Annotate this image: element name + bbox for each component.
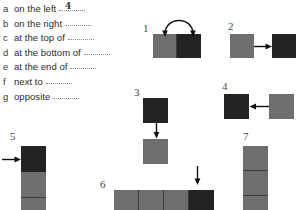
item-letter: d: [3, 47, 14, 58]
list-item: b on the right: [3, 17, 139, 32]
item-letter: f: [3, 76, 14, 87]
figure-6: 6: [100, 178, 220, 210]
figure-5-stack-cell-1: [21, 146, 46, 172]
item-letter: c: [3, 32, 14, 43]
answer-value: 4: [65, 1, 71, 11]
arrow-right-icon: [254, 42, 273, 51]
figure-3-top-block: [143, 98, 168, 123]
figure-6-row-cell-3: [164, 190, 189, 210]
figure-7-stack-cell-3: [243, 196, 268, 210]
figure-3-bottom-block: [143, 139, 168, 164]
figure-6-row-cell-2: [139, 190, 164, 210]
answer-blank[interactable]: [70, 60, 96, 70]
figure-2-number: 2: [228, 20, 234, 32]
answer-blank[interactable]: 4: [59, 2, 85, 12]
item-phrase: on the left: [14, 3, 56, 14]
figure-3: 3: [134, 86, 180, 158]
figure-7-stack-cell-1: [243, 146, 268, 171]
figure-1-number: 1: [143, 22, 149, 34]
figure-4-number: 4: [222, 80, 228, 92]
arrow-right-icon: [2, 155, 22, 164]
curved-arrow-icon: [153, 12, 205, 38]
list-item: f next to: [3, 75, 139, 90]
item-letter: b: [3, 18, 14, 29]
figure-5-stack-cell-3: [21, 198, 46, 210]
answer-blank[interactable]: [65, 17, 91, 27]
item-letter: a: [3, 3, 14, 14]
list-item: g opposite: [3, 90, 139, 105]
figure-7-number: 7: [243, 130, 249, 142]
figure-4: 4: [222, 80, 296, 126]
item-letter: g: [3, 91, 14, 102]
item-phrase: at the bottom of: [14, 47, 81, 58]
figure-2: 2: [228, 12, 296, 58]
figure-1: 1: [143, 12, 205, 58]
item-phrase: at the end of: [14, 61, 67, 72]
figure-5-number: 5: [10, 130, 16, 142]
item-phrase: on the right: [14, 18, 62, 29]
arrow-left-icon: [249, 102, 269, 111]
arrow-down-icon: [152, 123, 161, 139]
figure-3-number: 3: [134, 86, 140, 98]
figure-7: 7: [243, 130, 289, 210]
answer-blank[interactable]: [46, 75, 72, 85]
figure-5-stack-cell-2: [21, 172, 46, 198]
figure-4-source-block: [269, 94, 294, 119]
list-item: e at the end of: [3, 60, 139, 75]
item-phrase: next to: [14, 76, 43, 87]
figure-6-row-cell-1: [114, 190, 139, 210]
arrow-down-icon: [193, 166, 202, 186]
figure-4-target-block: [224, 94, 249, 119]
figure-6-row-cell-4: [189, 190, 214, 210]
item-phrase: opposite: [14, 91, 50, 102]
item-letter: e: [3, 61, 14, 72]
answer-blank[interactable]: [68, 31, 94, 41]
answer-blank[interactable]: [53, 90, 79, 100]
list-item: d at the bottom of: [3, 46, 139, 61]
answer-blank[interactable]: [84, 46, 110, 56]
figure-2-target-block: [272, 34, 296, 58]
figure-2-source-block: [230, 34, 254, 58]
item-phrase: at the top of: [14, 32, 65, 43]
exercise-list: a on the left 4 b on the right c at the …: [3, 2, 139, 104]
figure-6-number: 6: [100, 178, 106, 190]
list-item: c at the top of: [3, 31, 139, 46]
figure-5: 5: [2, 130, 50, 210]
figure-7-stack-cell-2: [243, 171, 268, 196]
list-item: a on the left 4: [3, 2, 139, 17]
